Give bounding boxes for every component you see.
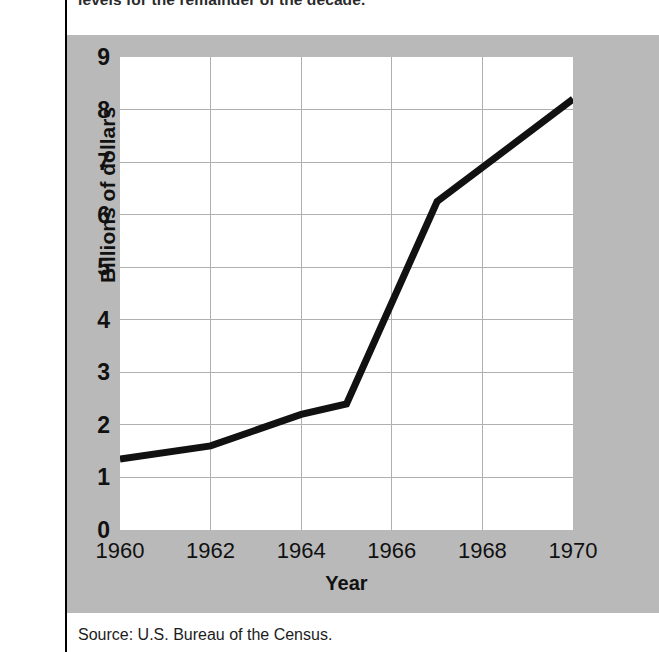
data-line <box>120 57 573 530</box>
x-axis-tick-labels: 1960 1962 1964 1966 1968 1970 <box>120 540 573 570</box>
y-axis-title: Billions of dollars <box>96 65 120 325</box>
source-note: Source: U.S. Bureau of the Census. <box>78 626 332 644</box>
plot-area <box>120 57 573 530</box>
figure-caption-top: levels for the remainder of the decade. <box>78 0 638 9</box>
y-tick-2: 2 <box>76 413 110 436</box>
y-tick-3: 3 <box>76 361 110 384</box>
x-axis-title: Year <box>120 572 573 595</box>
y-tick-1: 1 <box>76 466 110 489</box>
x-tick-1970: 1970 <box>518 540 628 562</box>
